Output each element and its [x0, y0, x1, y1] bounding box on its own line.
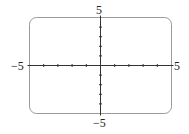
x-max-label: 5	[174, 60, 180, 72]
viewing-window	[0, 0, 189, 134]
y-min-label: −5	[93, 117, 106, 129]
y-max-label: 5	[96, 4, 102, 16]
x-min-label: −5	[11, 60, 24, 72]
